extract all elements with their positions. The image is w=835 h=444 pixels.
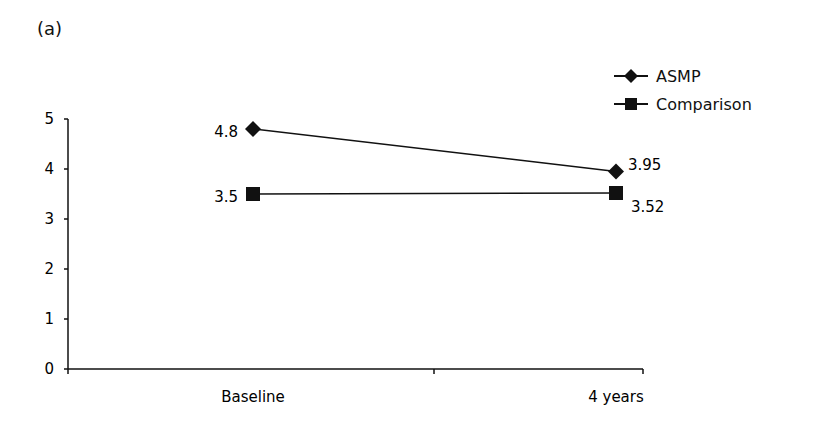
x-tick-label: 4 years xyxy=(588,388,644,406)
y-tick-label: 5 xyxy=(44,110,54,128)
data-label: 4.8 xyxy=(214,123,238,141)
y-tick-label: 3 xyxy=(44,210,54,228)
y-tick-label: 2 xyxy=(44,260,54,278)
data-label: 3.95 xyxy=(628,156,661,174)
legend-item-comparison: Comparison xyxy=(614,90,752,118)
y-tick-label: 4 xyxy=(44,160,54,178)
data-point xyxy=(245,121,261,137)
y-tick-label: 1 xyxy=(44,310,54,328)
diamond-marker-icon xyxy=(614,68,648,84)
data-label: 3.5 xyxy=(214,188,238,206)
legend-label: ASMP xyxy=(656,67,701,86)
square-marker-icon xyxy=(614,96,648,112)
data-point xyxy=(609,186,623,200)
data-point xyxy=(608,164,624,180)
series-line-comparison xyxy=(253,193,616,194)
data-point xyxy=(246,187,260,201)
series-line-asmp xyxy=(253,129,616,172)
legend: ASMP Comparison xyxy=(614,62,752,118)
y-tick-label: 0 xyxy=(44,360,54,378)
legend-item-asmp: ASMP xyxy=(614,62,752,90)
data-label: 3.52 xyxy=(631,198,664,216)
legend-label: Comparison xyxy=(656,95,752,114)
x-tick-label: Baseline xyxy=(221,388,285,406)
